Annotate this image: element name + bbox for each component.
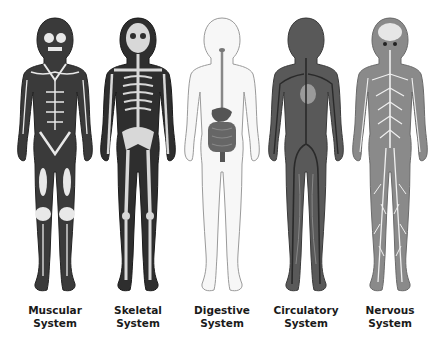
label-digestive: Digestive System (177, 304, 267, 329)
label-line2: System (345, 317, 435, 330)
label-nervous: Nervous System (345, 304, 435, 329)
circulatory-system-figure (264, 14, 348, 296)
nervous-system-figure (348, 14, 432, 296)
digestive-system-figure (180, 14, 264, 296)
label-line2: System (93, 317, 183, 330)
label-line1: Nervous (345, 304, 435, 317)
label-line1: Muscular (10, 304, 100, 317)
label-line1: Digestive (177, 304, 267, 317)
label-circulatory: Circulatory System (261, 304, 351, 329)
label-line1: Circulatory (261, 304, 351, 317)
label-line2: System (10, 317, 100, 330)
muscular-system-figure (13, 14, 97, 296)
skeletal-system-figure (96, 14, 180, 296)
label-line2: System (261, 317, 351, 330)
label-line1: Skeletal (93, 304, 183, 317)
label-muscular: Muscular System (10, 304, 100, 329)
label-line2: System (177, 317, 267, 330)
label-skeletal: Skeletal System (93, 304, 183, 329)
